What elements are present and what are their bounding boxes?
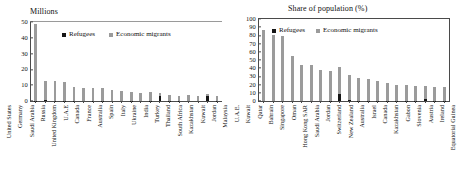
bar-column[interactable] <box>440 19 450 101</box>
stacked-bar[interactable] <box>63 82 66 101</box>
x-tick-mark <box>50 101 60 103</box>
x-tick-mark <box>326 101 336 103</box>
x-tick-mark <box>165 101 175 103</box>
stacked-bar[interactable] <box>130 92 133 101</box>
legend-item-refugees: Refugees <box>272 27 305 34</box>
bar-column[interactable] <box>430 19 440 101</box>
stacked-bar[interactable] <box>291 56 294 101</box>
stacked-bar[interactable] <box>310 65 313 101</box>
bar-column[interactable] <box>174 22 184 101</box>
x-label-cell: United States <box>0 105 11 113</box>
stacked-bar[interactable] <box>376 81 379 101</box>
x-label-cell: Kuwait <box>194 105 205 113</box>
bar-column[interactable] <box>411 19 421 101</box>
bar-segment-economic-migrants <box>376 81 379 101</box>
x-tick-mark <box>31 101 41 103</box>
legend-label-refugees: Refugees <box>279 27 305 34</box>
x-label-cell: Austria <box>422 105 433 113</box>
x-axis-category-label: Equatorial Guinea <box>450 105 456 150</box>
x-label-cell: Jordan <box>205 105 216 113</box>
stacked-bar[interactable] <box>159 93 162 101</box>
stacked-bar[interactable] <box>300 65 303 101</box>
x-label-cell: Kazakhstan <box>183 105 194 113</box>
stacked-bar[interactable] <box>82 88 85 101</box>
x-axis-labels-share: U.A.E.KuwaitQatarBahrainSingaporeOmanHon… <box>228 105 456 113</box>
stacked-bar[interactable] <box>92 88 95 101</box>
bar-segment-economic-migrants <box>395 85 398 101</box>
x-label-cell: Oman <box>285 105 296 113</box>
stacked-bar[interactable] <box>44 81 47 101</box>
x-tick-mark <box>60 101 70 103</box>
x-tick-mark <box>184 101 194 103</box>
bar-column[interactable] <box>41 22 51 101</box>
x-tick-mark <box>88 101 98 103</box>
stacked-bar[interactable] <box>73 87 76 101</box>
stacked-bar[interactable] <box>34 24 37 101</box>
x-tick-mark <box>440 101 450 103</box>
bar-segment-economic-migrants <box>92 88 95 101</box>
stacked-bar[interactable] <box>443 87 446 101</box>
x-tick-mark <box>316 101 326 103</box>
bar-column[interactable] <box>392 19 402 101</box>
bar-column[interactable] <box>184 22 194 101</box>
x-label-cell: Russia <box>34 105 45 113</box>
bar-segment-economic-migrants <box>291 56 294 101</box>
stacked-bar[interactable] <box>206 94 209 101</box>
stacked-bar[interactable] <box>367 79 370 101</box>
x-label-cell: Canada <box>376 105 387 113</box>
stacked-bar[interactable] <box>281 36 284 101</box>
stacked-bar[interactable] <box>319 70 322 101</box>
stacked-bar[interactable] <box>329 71 332 101</box>
chart-title-millions: Millions <box>30 7 58 16</box>
y-tick-label: 100 <box>246 16 259 23</box>
stacked-bar[interactable] <box>433 87 436 101</box>
x-tick-mark <box>364 101 374 103</box>
stacked-bar[interactable] <box>54 81 57 101</box>
x-label-cell: Italy <box>114 105 125 113</box>
stacked-bar[interactable] <box>405 85 408 101</box>
stacked-bar[interactable] <box>386 83 389 101</box>
bar-column[interactable] <box>50 22 60 101</box>
bar-column[interactable] <box>193 22 203 101</box>
bar-column[interactable] <box>402 19 412 101</box>
bar-column[interactable] <box>383 19 393 101</box>
x-tick-mark <box>259 101 269 103</box>
stacked-bar[interactable] <box>139 93 142 101</box>
y-tick-label: 40 <box>21 35 31 42</box>
x-tick-mark <box>41 101 51 103</box>
bar-segment-economic-migrants <box>357 78 360 101</box>
stacked-bar[interactable] <box>348 75 351 101</box>
stacked-bar[interactable] <box>149 92 152 101</box>
bar-segment-economic-migrants <box>338 67 341 94</box>
stacked-bar[interactable] <box>357 78 360 101</box>
bar-segment-refugees <box>338 94 341 101</box>
stacked-bar[interactable] <box>414 86 417 101</box>
stacked-bar[interactable] <box>262 30 265 101</box>
x-label-cell: Spain <box>103 105 114 113</box>
stacked-bar[interactable] <box>101 88 104 101</box>
x-label-cell: Saudi Arabia <box>308 105 319 113</box>
y-tick-label: 20 <box>21 66 31 73</box>
bar-column[interactable] <box>212 22 222 101</box>
bar-segment-economic-migrants <box>319 70 322 101</box>
stacked-bar[interactable] <box>424 86 427 101</box>
legend-swatch-refugees-icon <box>62 33 66 37</box>
bar-column[interactable] <box>421 19 431 101</box>
x-label-cell: Jordan <box>319 105 330 113</box>
bar-column[interactable] <box>259 19 269 101</box>
x-label-cell: India <box>137 105 148 113</box>
y-tick-label: 30 <box>21 50 31 57</box>
chart-panel-millions: Millions 01020304050 Refugees Economic m… <box>0 0 228 180</box>
stacked-bar[interactable] <box>111 90 114 101</box>
bar-column[interactable] <box>203 22 213 101</box>
bar-column[interactable] <box>31 22 41 101</box>
x-label-cell: Malaysia <box>217 105 228 113</box>
stacked-bar[interactable] <box>120 91 123 101</box>
legend-label-economic-migrants: Economic migrants <box>116 31 171 38</box>
stacked-bar[interactable] <box>395 85 398 101</box>
bar-segment-economic-migrants <box>414 86 417 101</box>
bar-segment-economic-migrants <box>272 35 275 101</box>
stacked-bar[interactable] <box>338 67 341 101</box>
stacked-bar[interactable] <box>272 35 275 101</box>
